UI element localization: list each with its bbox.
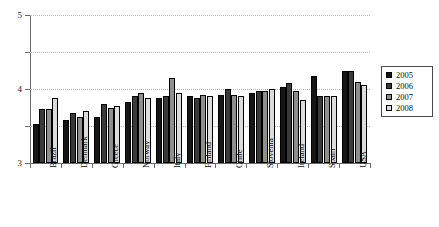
bar-denmark-2006 [70, 113, 76, 163]
x-axis-tick [61, 163, 62, 168]
bar-ireland-2005 [280, 87, 286, 163]
bar-group [94, 15, 120, 163]
y-axis-tick: 5 [25, 15, 30, 16]
legend-item-2005[interactable]: 2005 [386, 70, 429, 80]
x-axis-tick [277, 163, 278, 168]
bar-usa-2006 [348, 71, 354, 164]
y-axis-tick-label: 4 [18, 85, 23, 94]
bar-finland-2005 [187, 96, 193, 163]
x-axis-label-slovenia: Slovenia [266, 138, 275, 168]
x-axis-tick [246, 163, 247, 168]
y-axis-tick: 4 [25, 52, 30, 53]
x-axis-tick [370, 163, 371, 168]
x-axis-label-ireland: Ireland [297, 144, 306, 168]
x-axis-label-spain: Spain [328, 149, 337, 168]
bar-usa-2005 [342, 71, 348, 164]
bar-denmark-2005 [63, 120, 69, 163]
x-axis-label-italy: Italy [173, 152, 182, 168]
bar-brazil-2006 [39, 109, 45, 163]
bar-group [156, 15, 182, 163]
bar-group [218, 15, 244, 163]
y-axis-tick-label: 5 [18, 11, 23, 20]
y-axis-tick-label: 3 [18, 159, 23, 168]
bar-norway-2006 [132, 96, 138, 163]
legend-swatch-icon [386, 83, 392, 89]
bar-italy-2006 [163, 96, 169, 163]
bar-group [187, 15, 213, 163]
bar-chile-2005 [218, 95, 224, 163]
bar-chile-2006 [225, 89, 231, 163]
x-axis-tick [92, 163, 93, 168]
legend-item-2006[interactable]: 2006 [386, 81, 429, 91]
y-axis-tick: 3 [25, 89, 30, 90]
x-axis-label-finland: Finland [204, 142, 213, 168]
legend-item-2007[interactable]: 2007 [386, 92, 429, 102]
legend-label: 2008 [396, 104, 413, 113]
x-axis-tick [30, 163, 31, 168]
bar-group [33, 15, 59, 163]
legend-item-2008[interactable]: 2008 [386, 103, 429, 113]
x-axis-label-chile: Chile [235, 150, 244, 168]
bar-greece-2006 [101, 104, 107, 163]
x-axis-tick [308, 163, 309, 168]
bar-spain-2005 [311, 76, 317, 163]
bar-italy-2007 [169, 78, 175, 163]
x-axis-label-brazil: Brazil [49, 147, 58, 168]
x-axis-tick [215, 163, 216, 168]
legend-label: 2006 [396, 82, 413, 91]
bar-spain-2006 [317, 96, 323, 163]
bar-slovenia-2006 [256, 91, 262, 163]
bar-finland-2006 [194, 98, 200, 163]
bar-slovenia-2005 [249, 93, 255, 163]
bar-ireland-2006 [286, 83, 292, 163]
bar-chart: 12345 BrazilDenmarkGreeceNorwayItalyFinl… [0, 0, 439, 227]
x-axis-tick [339, 163, 340, 168]
bar-greece-2005 [94, 117, 100, 163]
chart-legend: 2005200620072008 [381, 66, 433, 117]
legend-swatch-icon [386, 105, 392, 111]
legend-swatch-icon [386, 72, 392, 78]
x-axis-label-usa: USA [359, 151, 368, 168]
legend-swatch-icon [386, 94, 392, 100]
legend-label: 2005 [396, 71, 413, 80]
bar-norway-2005 [125, 102, 131, 163]
x-axis-label-greece: Greece [111, 144, 120, 168]
x-axis-label-denmark: Denmark [80, 136, 89, 168]
y-axis-tick: 2 [25, 126, 30, 127]
bar-group [280, 15, 306, 163]
bar-group [311, 15, 337, 163]
bar-brazil-2005 [33, 124, 39, 163]
bar-italy-2005 [156, 98, 162, 163]
x-axis-tick [123, 163, 124, 168]
x-axis-label-norway: Norway [142, 141, 151, 168]
bar-group [342, 15, 368, 163]
x-axis-tick [185, 163, 186, 168]
x-axis-tick [154, 163, 155, 168]
legend-label: 2007 [396, 93, 413, 102]
